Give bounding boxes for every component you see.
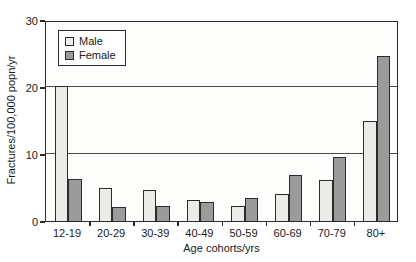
- legend-item-female: Female: [65, 49, 116, 61]
- y-tick-mark-30: [40, 20, 45, 21]
- y-tick-label-0: 0: [0, 216, 38, 228]
- x-tick-label-70-79: 70-79: [310, 227, 354, 240]
- legend-label-female: Female: [79, 49, 116, 61]
- fractures-by-age-bar-chart: Fractures/100,000 popn/yr MaleFemale Age…: [0, 0, 416, 262]
- x-tick-mark-4: [222, 221, 223, 226]
- y-tick-mark-0: [40, 221, 45, 222]
- gridline-10: [46, 153, 397, 154]
- x-tick-label-12-19: 12-19: [45, 227, 89, 240]
- x-tick-label-20-29: 20-29: [89, 227, 133, 240]
- bar-female-20-29: [112, 207, 126, 221]
- bar-male-40-49: [187, 200, 201, 221]
- bar-male-30-39: [143, 190, 157, 221]
- x-tick-label-60-69: 60-69: [266, 227, 310, 240]
- y-tick-label-10: 10: [0, 149, 38, 161]
- bar-female-60-69: [289, 175, 303, 221]
- legend: MaleFemale: [58, 30, 126, 66]
- bar-female-70-79: [333, 157, 347, 221]
- x-tick-mark-7: [354, 221, 355, 226]
- x-tick-mark-3: [177, 221, 178, 226]
- legend-item-male: Male: [65, 35, 116, 47]
- bar-male-80+: [363, 121, 377, 221]
- y-tick-mark-20: [40, 87, 45, 88]
- x-tick-label-40-49: 40-49: [177, 227, 221, 240]
- bar-female-12-19: [68, 179, 82, 221]
- bar-female-80+: [377, 56, 391, 221]
- bar-female-40-49: [200, 202, 214, 221]
- bar-male-70-79: [319, 180, 333, 221]
- bar-male-60-69: [275, 194, 289, 221]
- legend-swatch-icon: [65, 37, 74, 46]
- x-tick-mark-6: [310, 221, 311, 226]
- gridline-20: [46, 86, 397, 87]
- legend-swatch-icon: [65, 51, 74, 60]
- bar-female-50-59: [245, 198, 259, 221]
- bar-female-30-39: [156, 206, 170, 221]
- bar-male-20-29: [99, 188, 113, 221]
- x-axis-title: Age cohorts/yrs: [45, 242, 398, 255]
- x-tick-mark-5: [266, 221, 267, 226]
- bar-male-50-59: [231, 206, 245, 221]
- y-tick-label-20: 20: [0, 82, 38, 94]
- x-tick-mark-1: [89, 221, 90, 226]
- x-tick-label-30-39: 30-39: [133, 227, 177, 240]
- y-axis-title: Fractures/100,000 popn/yr: [5, 55, 17, 184]
- plot-area: MaleFemale: [45, 21, 398, 222]
- legend-label-male: Male: [79, 35, 103, 47]
- y-tick-mark-10: [40, 154, 45, 155]
- x-tick-mark-2: [133, 221, 134, 226]
- x-tick-label-50-59: 50-59: [222, 227, 266, 240]
- x-tick-label-80+: 80+: [354, 227, 398, 240]
- y-tick-label-30: 30: [0, 15, 38, 27]
- bar-male-12-19: [55, 86, 69, 221]
